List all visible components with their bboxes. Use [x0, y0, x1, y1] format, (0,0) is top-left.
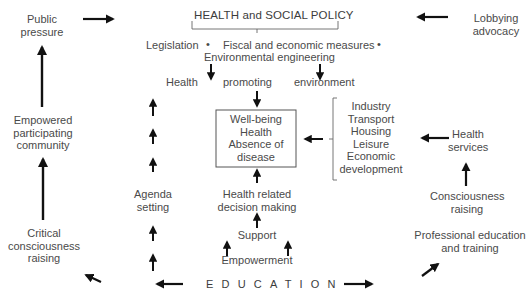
education-to-critical-arrow	[86, 275, 101, 282]
diagram-title: HEALTH and SOCIAL POLICY	[194, 9, 336, 22]
legislation-label: Legislation	[146, 39, 199, 52]
professional-education-label: Professional education and training	[414, 229, 526, 254]
wellbeing-box-text: Well-being Health Absence of disease	[216, 113, 296, 163]
health-word: Health	[166, 76, 198, 89]
sectors-list: Industry Transport Housing Leisure Econo…	[334, 100, 408, 175]
public-pressure-label: Public pressure	[10, 13, 74, 38]
health-related-label: Health related decision making	[214, 188, 300, 213]
professional-education-arrow	[422, 264, 438, 276]
environment-word: environment	[294, 76, 355, 89]
health-services-label: Health services	[448, 128, 488, 153]
fiscal-label: Fiscal and economic measures	[223, 39, 375, 52]
consciousness-raising-label: Consciousness raising	[430, 190, 504, 215]
environmental-label: Environmental engineering	[204, 51, 335, 64]
education-label: EDUCATION	[206, 278, 344, 291]
critical-consciousness-label: Critical consciousness raising	[4, 227, 84, 265]
empowered-community-label: Empowered participating community	[6, 114, 80, 152]
agenda-setting-label: Agenda setting	[126, 188, 180, 213]
bullet-1: •	[206, 38, 210, 51]
empowerment-label: Empowerment	[218, 254, 296, 267]
lobbying-advocacy-label: Lobbying advocacy	[468, 12, 524, 37]
bullet-2: •	[377, 38, 381, 51]
title-bracket	[192, 21, 338, 33]
support-label: Support	[230, 229, 284, 242]
promoting-word: promoting	[223, 76, 272, 89]
